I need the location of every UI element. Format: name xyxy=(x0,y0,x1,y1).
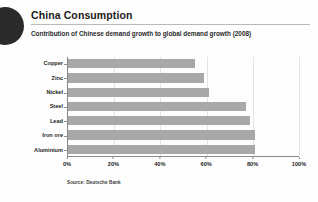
bar-row xyxy=(68,101,299,113)
x-axis-tickmark xyxy=(113,157,114,159)
y-axis-tick-label: Lead xyxy=(27,116,67,128)
bar-row xyxy=(68,129,299,141)
y-axis-tick-label: Aluminium xyxy=(27,144,67,156)
bar-row xyxy=(68,115,299,127)
x-axis: 0%20%40%60%80%100% xyxy=(67,157,299,173)
page-title: China Consumption xyxy=(31,9,310,21)
slide-canvas: China Consumption Contribution of Chines… xyxy=(0,0,318,202)
chart-header: China Consumption Contribution of Chines… xyxy=(31,9,310,38)
bar xyxy=(68,145,255,154)
x-axis-tick: 20% xyxy=(108,157,119,167)
bar-chart: CopperZincNickelSteelLeadIron oreAlumini… xyxy=(27,57,299,173)
bar xyxy=(68,102,246,111)
y-axis-tick-label: Zinc xyxy=(27,72,67,84)
y-axis-tick-label: Nickel xyxy=(27,87,67,99)
title-divider xyxy=(31,24,310,25)
x-axis-tick: 0% xyxy=(63,157,71,167)
bar xyxy=(68,88,209,97)
bar xyxy=(68,130,255,139)
x-axis-tick-label: 0% xyxy=(63,161,71,167)
x-axis-tick: 40% xyxy=(154,157,165,167)
x-axis-tickmark xyxy=(159,157,160,159)
bar-row xyxy=(68,58,299,70)
dark-semicircle-logo-icon xyxy=(0,7,24,45)
x-axis-tickmark xyxy=(252,157,253,159)
x-axis-tickmark xyxy=(67,157,68,159)
x-axis-tick-label: 20% xyxy=(108,161,119,167)
source-note: Source: Deutsche Bank xyxy=(67,180,121,185)
x-axis-tick: 80% xyxy=(247,157,258,167)
bar-row xyxy=(68,72,299,84)
bar-series xyxy=(68,57,299,156)
y-axis-tick-label: Steel xyxy=(27,101,67,113)
plot-area xyxy=(67,57,299,157)
gridline xyxy=(299,57,300,156)
chart-subtitle: Contribution of Chinese demand growth to… xyxy=(31,30,310,38)
x-axis-tick-label: 40% xyxy=(154,161,165,167)
x-axis-tick: 60% xyxy=(201,157,212,167)
bar xyxy=(68,116,250,125)
x-axis-tick-label: 100% xyxy=(292,161,306,167)
x-axis-tick: 100% xyxy=(292,157,306,167)
bar xyxy=(68,59,195,68)
x-axis-tick-label: 80% xyxy=(247,161,258,167)
plot-wrapper: CopperZincNickelSteelLeadIron oreAlumini… xyxy=(27,57,299,157)
bar-row xyxy=(68,86,299,98)
x-axis-tickmark xyxy=(299,157,300,159)
y-axis-labels: CopperZincNickelSteelLeadIron oreAlumini… xyxy=(27,57,67,157)
y-axis-tick-label: Copper xyxy=(27,58,67,70)
x-axis-tick-label: 60% xyxy=(201,161,212,167)
bar-row xyxy=(68,143,299,155)
y-axis-tick-label: Iron ore xyxy=(27,130,67,142)
x-axis-tickmark xyxy=(206,157,207,159)
bar xyxy=(68,73,204,82)
